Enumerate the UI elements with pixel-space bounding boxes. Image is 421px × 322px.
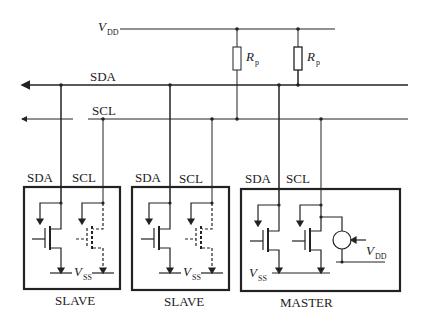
master-vss-label: VSS	[249, 266, 267, 283]
slave1-vss-label: VSS	[74, 265, 92, 282]
scl-bus-label: SCL	[92, 104, 116, 117]
vdd-label: VDD	[98, 20, 119, 37]
sda-bus-label: SDA	[90, 70, 116, 83]
current-source	[333, 231, 351, 249]
slave2-scl-pin-label: SCL	[179, 172, 203, 185]
master-sda-pin-label: SDA	[245, 172, 271, 185]
rp-label-1: Rp	[246, 50, 259, 67]
slave1-sda-pin-label: SDA	[27, 171, 53, 184]
i2c-schematic	[0, 0, 421, 322]
slave1-label: SLAVE	[55, 294, 95, 307]
pullup-resistor-scl	[233, 47, 241, 70]
master-scl-pin-label: SCL	[286, 172, 310, 185]
slave2-label: SLAVE	[164, 295, 204, 308]
slave2-sda-pin-label: SDA	[135, 171, 161, 184]
master-label: MASTER	[280, 296, 333, 309]
slave1-scl-pin-label: SCL	[72, 171, 96, 184]
master-vdd-label: VDD	[366, 244, 387, 261]
slave2-vss-label: VSS	[183, 265, 201, 282]
slave-1-box	[24, 187, 120, 289]
rp-label-2: Rp	[307, 50, 320, 67]
pullup-resistor-sda	[294, 47, 302, 70]
